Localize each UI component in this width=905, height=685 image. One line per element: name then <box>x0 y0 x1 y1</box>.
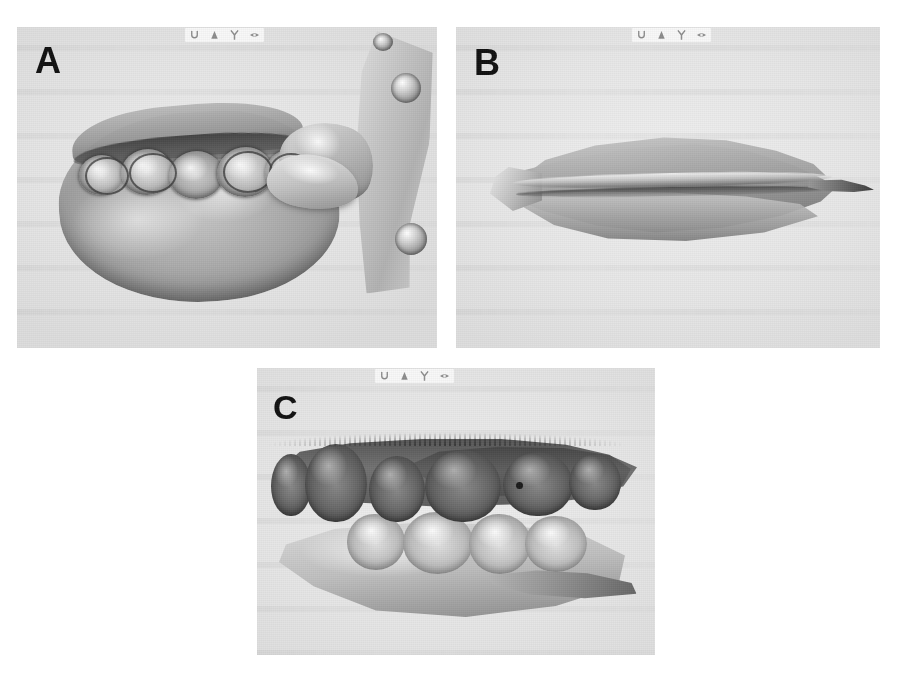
viewer-toolbar-b[interactable] <box>632 28 711 42</box>
undo-icon[interactable] <box>379 370 390 382</box>
lower-tooth <box>347 514 405 570</box>
figure-panel-b: B <box>456 27 880 348</box>
tooth-socket-outline <box>129 153 177 193</box>
cone-icon[interactable] <box>656 29 667 41</box>
tuning-fork-icon[interactable] <box>676 29 687 41</box>
cone-icon[interactable] <box>209 29 220 41</box>
upper-tooth <box>425 450 501 522</box>
lower-tooth <box>525 516 587 572</box>
figure-panel-a: A <box>17 27 437 348</box>
undo-icon[interactable] <box>636 29 647 41</box>
upper-tooth <box>503 452 573 516</box>
eye-icon[interactable] <box>249 29 260 41</box>
upper-tooth <box>569 454 621 510</box>
scan-fringe-edge <box>269 430 625 446</box>
figure-panel-c: C <box>257 368 655 655</box>
panel-label-b: B <box>474 45 500 81</box>
eye-icon[interactable] <box>696 29 707 41</box>
tooth-socket-outline <box>85 157 129 195</box>
plate-hole <box>391 73 421 103</box>
tooth-socket-outline <box>223 151 273 193</box>
tuning-fork-icon[interactable] <box>419 370 430 382</box>
eye-icon[interactable] <box>439 370 450 382</box>
undo-icon[interactable] <box>189 29 200 41</box>
plate-hole <box>395 223 427 255</box>
cast-tooth <box>169 151 223 199</box>
cone-icon[interactable] <box>399 370 410 382</box>
figure-root: A B C <box>0 0 905 685</box>
viewer-toolbar-a[interactable] <box>185 28 264 42</box>
panel-label-c: C <box>273 390 297 424</box>
upper-tooth <box>305 444 367 522</box>
upper-tooth <box>369 456 425 522</box>
viewer-toolbar-c[interactable] <box>375 369 454 383</box>
panel-label-a: A <box>35 43 61 79</box>
landmark-dot <box>516 482 523 489</box>
plate-hole <box>373 33 393 51</box>
tuning-fork-icon[interactable] <box>229 29 240 41</box>
lower-tooth <box>469 514 531 574</box>
